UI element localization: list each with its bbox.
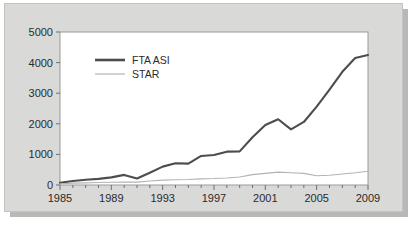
x-axis: 1985198919931997200120052009 [48, 185, 380, 204]
y-axis-tick-label: 1000 [29, 148, 53, 160]
x-axis-tick-label: 2009 [356, 192, 380, 204]
x-axis-tick-label: 1997 [202, 192, 226, 204]
y-axis-tick-label: 0 [47, 179, 53, 191]
y-axis: 010002000300040005000 [29, 26, 60, 191]
legend-label-fta-asi: FTA ASI [132, 54, 170, 66]
legend-label-star: STAR [132, 68, 160, 80]
plot-area-background [60, 32, 368, 185]
x-axis-tick-label: 1989 [99, 192, 123, 204]
y-axis-tick-label: 3000 [29, 87, 53, 99]
x-axis-tick-label: 1993 [150, 192, 174, 204]
chart-figure: 010002000300040005000 198519891993199720… [0, 0, 413, 225]
x-axis-tick-label: 2005 [304, 192, 328, 204]
line-chart: 010002000300040005000 198519891993199720… [0, 0, 413, 225]
y-axis-tick-label: 4000 [29, 57, 53, 69]
x-axis-tick-label: 1985 [48, 192, 72, 204]
y-axis-tick-label: 5000 [29, 26, 53, 38]
x-axis-tick-label: 2001 [253, 192, 277, 204]
y-axis-tick-label: 2000 [29, 118, 53, 130]
